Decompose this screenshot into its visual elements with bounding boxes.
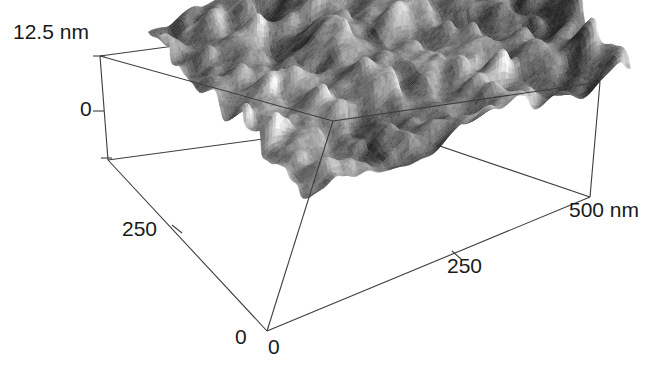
surface-mesh	[148, 0, 630, 198]
z-axis-max-label: 12.5 nm	[13, 21, 89, 42]
y-axis-zero-label: 0	[235, 326, 247, 347]
x-axis-zero-label: 0	[268, 336, 280, 357]
x-axis-max-label: 500 nm	[569, 199, 639, 220]
y-axis-mid-label: 250	[122, 218, 157, 239]
afm-3d-surface-figure: 12.5 nm 0 250 0 0 250 500 nm	[0, 0, 664, 380]
x-axis-mid-label: 250	[447, 255, 482, 276]
plot-canvas	[0, 0, 664, 380]
z-axis-zero-label: 0	[80, 98, 92, 119]
